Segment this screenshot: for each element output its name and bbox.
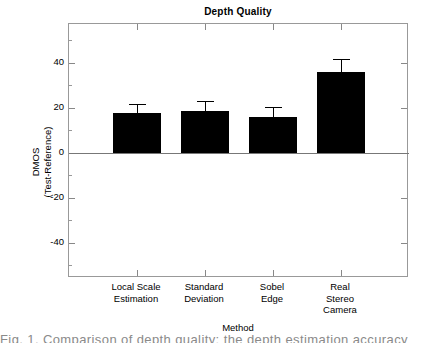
error-bar-line-real-stereo-camera (341, 59, 342, 72)
error-bar-cap-standard-deviation (197, 101, 214, 102)
figure-caption: Fig. 1. Comparison of depth quality: the… (0, 332, 430, 343)
y-tick-label-40: 40 (38, 57, 64, 67)
x-tick-1 (137, 270, 138, 276)
y-axis-title: DMOS (Test-Reference) (30, 62, 54, 262)
x-category-label-real-stereo-camera: Real Stereo Camera (300, 281, 380, 316)
y-tick-minor-10 (69, 130, 72, 131)
plot-frame (68, 23, 408, 277)
x-tick-4 (341, 270, 342, 276)
error-bar-line-local-scale-estimation (137, 104, 138, 113)
y-tick-label-0: 0 (38, 147, 64, 157)
y-axis-title-line1: DMOS (30, 62, 42, 262)
y-tick-20 (69, 108, 75, 109)
error-bar-cap-local-scale-estimation (129, 104, 146, 105)
x-tick-3-top (273, 24, 274, 30)
bar-local-scale-estimation (113, 113, 161, 153)
x-tick-3 (273, 270, 274, 276)
x-tick-4-top (341, 24, 342, 30)
bar-standard-deviation (181, 111, 229, 153)
y-tick-40-right (401, 63, 407, 64)
y-tick-40 (69, 63, 75, 64)
y-tick-neg20-right (401, 198, 407, 199)
y-axis-title-line2: (Test-Reference) (42, 62, 54, 262)
y-tick-neg40-right (401, 243, 407, 244)
y-tick-label-neg40: -40 (38, 237, 64, 247)
y-tick-minor-30 (69, 85, 72, 86)
x-tick-2-top (205, 24, 206, 30)
error-bar-cap-real-stereo-camera (333, 59, 350, 60)
y-tick-neg20 (69, 198, 75, 199)
y-tick-minor-50 (69, 40, 72, 41)
y-tick-label-20: 20 (38, 102, 64, 112)
y-tick-neg40 (69, 243, 75, 244)
y-tick-20-right (401, 108, 407, 109)
error-bar-line-sobel-edge (273, 107, 274, 117)
y-tick-label-neg20: -20 (38, 192, 64, 202)
plot-area (69, 24, 407, 276)
bar-sobel-edge (249, 117, 297, 153)
y-tick-minor-neg30 (69, 220, 72, 221)
x-tick-1-top (137, 24, 138, 30)
error-bar-cap-sobel-edge (265, 107, 282, 108)
y-tick-minor-neg10 (69, 175, 72, 176)
y-tick-minor-neg50 (69, 265, 72, 266)
bar-real-stereo-camera (317, 72, 365, 153)
x-tick-2 (205, 270, 206, 276)
zero-baseline (69, 153, 409, 154)
chart-title: Depth Quality (68, 6, 408, 17)
error-bar-line-standard-deviation (205, 101, 206, 111)
figure-depth-quality: Depth Quality DMOS (Test-Reference) 40 2… (0, 0, 430, 343)
